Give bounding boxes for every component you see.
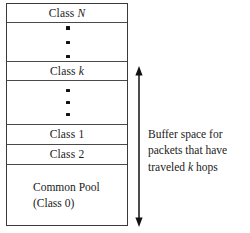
- caption-line-2: packets that have: [148, 142, 250, 158]
- ellipsis-dot: [66, 113, 69, 116]
- common-pool-line-2: (Class 0): [33, 195, 100, 211]
- buffer-band-class-2: Class 2: [7, 145, 127, 165]
- caption-line-3: traveled k hops: [148, 159, 250, 175]
- buffer-stack: Class N Class k Class 1 Class 2: [6, 3, 128, 226]
- buffer-band-ellipsis-top: [7, 23, 127, 63]
- buffer-band-class-1: Class 1: [7, 125, 127, 145]
- ellipsis-dot: [66, 101, 69, 104]
- buffer-band-common-pool: Common Pool (Class 0): [7, 165, 127, 225]
- ellipsis-dot: [66, 26, 69, 29]
- buffer-band-label-class-k: Class k: [50, 65, 84, 77]
- double-headed-arrow-icon: [133, 66, 145, 227]
- ellipsis-dot: [66, 89, 69, 92]
- vertical-ellipsis-icon: [7, 89, 127, 117]
- buffer-band-class-n: Class N: [7, 4, 127, 23]
- annotation-caption: Buffer space for packets that have trave…: [148, 126, 250, 175]
- caption-line-1: Buffer space for: [148, 126, 250, 142]
- figure-canvas: Class N Class k Class 1 Class 2: [0, 0, 250, 233]
- buffer-band-label-class-2: Class 2: [50, 148, 85, 160]
- buffer-band-label-class-n: Class N: [49, 7, 86, 19]
- ellipsis-dot: [66, 41, 69, 44]
- common-pool-line-1: Common Pool: [33, 178, 100, 194]
- common-pool-label: Common Pool (Class 0): [33, 178, 100, 211]
- buffer-band-ellipsis-mid: [7, 81, 127, 125]
- ellipsis-dot: [66, 55, 69, 58]
- buffer-band-class-k: Class k: [7, 62, 127, 81]
- buffer-band-label-class-1: Class 1: [50, 128, 85, 140]
- vertical-ellipsis-icon: [7, 26, 127, 58]
